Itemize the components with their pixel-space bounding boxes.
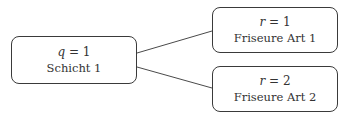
node-variable: r = 1 <box>259 14 290 30</box>
node-label: Friseure Art 2 <box>234 89 317 105</box>
node-schicht-1: q = 1 Schicht 1 <box>11 36 137 84</box>
node-label: Schicht 1 <box>47 60 102 76</box>
edge-root-child2 <box>137 67 212 88</box>
node-friseure-art-2: r = 2 Friseure Art 2 <box>212 66 338 112</box>
node-label: Friseure Art 1 <box>234 30 317 46</box>
edge-root-child1 <box>137 31 212 53</box>
node-friseure-art-1: r = 1 Friseure Art 1 <box>212 7 338 53</box>
node-variable: r = 2 <box>259 73 290 89</box>
node-variable: q = 1 <box>57 44 90 60</box>
